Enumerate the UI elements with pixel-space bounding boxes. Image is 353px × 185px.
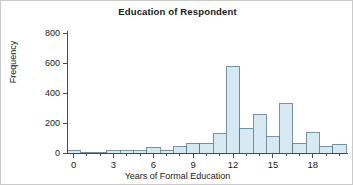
histogram-bar: [293, 143, 306, 153]
histogram-bar: [187, 143, 200, 153]
histogram-bar: [253, 114, 266, 153]
histogram-bar: [280, 104, 293, 154]
histogram-figure: Education of Respondent Frequency Years …: [0, 0, 353, 185]
x-tick-label: 0: [71, 159, 76, 170]
x-tick-label: 12: [228, 159, 239, 170]
histogram-bar: [306, 133, 319, 153]
histogram-bar: [213, 134, 226, 154]
y-axis-ticks: 0200400600800: [45, 28, 67, 158]
x-tick-label: 15: [268, 159, 279, 170]
y-tick-label: 400: [45, 88, 60, 98]
x-tick-label: 3: [111, 159, 116, 170]
histogram-bar: [266, 137, 279, 154]
histogram-bar: [319, 146, 332, 153]
y-tick-label: 200: [45, 118, 60, 128]
x-tick-label: 6: [151, 159, 156, 170]
histogram-bar: [226, 66, 239, 153]
x-tick-label: 18: [307, 159, 318, 170]
histogram-bar: [333, 144, 346, 153]
y-tick-label: 600: [45, 58, 60, 68]
histogram-bar: [240, 128, 253, 153]
plot-area: 0200400600800 0369121518: [1, 1, 353, 185]
histogram-bar: [147, 147, 160, 153]
x-axis-ticks: 0369121518: [71, 153, 339, 170]
y-tick-label: 800: [45, 28, 60, 38]
y-tick-label: 0: [55, 148, 60, 158]
x-tick-label: 9: [191, 159, 196, 170]
bars-group: [67, 66, 346, 153]
histogram-bar: [200, 143, 213, 153]
histogram-bar: [173, 146, 186, 153]
